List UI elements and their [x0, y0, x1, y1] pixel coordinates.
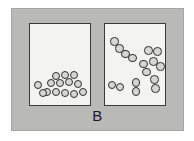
- atom: [70, 71, 79, 80]
- atom: [108, 81, 117, 90]
- left-container: [29, 23, 91, 106]
- atom: [139, 60, 148, 69]
- atom: [52, 88, 61, 97]
- right-container: [104, 23, 166, 106]
- atom: [132, 87, 141, 96]
- atom: [132, 78, 141, 87]
- atom: [121, 50, 130, 59]
- atom: [74, 80, 83, 89]
- atom: [128, 54, 137, 63]
- atom: [47, 79, 56, 88]
- atom: [150, 75, 159, 84]
- atom: [116, 83, 125, 92]
- atom: [43, 88, 52, 97]
- left-container-particle-layer: [30, 24, 90, 105]
- atom: [61, 89, 70, 98]
- atom: [61, 71, 70, 80]
- atom: [156, 62, 165, 71]
- atom: [115, 44, 124, 53]
- atom: [52, 72, 61, 81]
- atom: [110, 37, 119, 46]
- diagram-panel: B: [11, 8, 184, 131]
- right-container-particle-layer: [105, 24, 165, 105]
- atom: [142, 68, 151, 77]
- atom: [39, 89, 48, 98]
- atom: [65, 78, 74, 87]
- figure-root: B Diagram B: two sealed boxes side by si…: [0, 0, 194, 141]
- atom: [153, 47, 162, 56]
- atom: [34, 81, 43, 90]
- figure-description: Diagram B: two sealed boxes side by side…: [0, 0, 1, 1]
- atom: [144, 46, 153, 55]
- atom: [151, 84, 160, 93]
- panel-label: B: [12, 108, 183, 124]
- atom: [56, 79, 65, 88]
- atom: [70, 90, 79, 99]
- atom: [149, 57, 158, 66]
- atom: [79, 88, 88, 97]
